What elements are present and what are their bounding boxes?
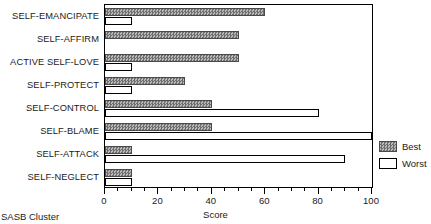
bar-group-row — [105, 120, 372, 143]
x-tick-minor — [278, 188, 279, 191]
bar-best — [105, 146, 132, 154]
x-tick-minor — [304, 188, 305, 191]
bar-worst — [105, 63, 132, 71]
x-tick-major — [157, 188, 158, 194]
x-tick-minor — [358, 188, 359, 191]
x-tick-minor — [238, 188, 239, 191]
bar-group-row — [105, 28, 372, 51]
bar-best — [105, 31, 239, 39]
legend-item-worst: Worst — [379, 156, 431, 173]
bar-group-row — [105, 143, 372, 166]
y-axis-label: SELF-CONTROL — [26, 103, 99, 113]
bar-worst — [105, 178, 132, 186]
x-tick-major — [104, 188, 105, 194]
bar-worst — [105, 155, 345, 163]
x-axis-title: Score — [0, 209, 431, 220]
y-axis-label: SELF-BLAME — [40, 126, 99, 136]
bar-group-row — [105, 51, 372, 74]
y-axis-label: ACTIVE SELF-LOVE — [10, 57, 99, 67]
bar-group-row — [105, 166, 372, 189]
x-tick-minor — [131, 188, 132, 191]
bar-best — [105, 100, 212, 108]
x-tick-minor — [251, 188, 252, 191]
legend-swatch-worst-icon — [379, 158, 397, 169]
legend-label-worst: Worst — [402, 158, 427, 169]
y-axis-label: SELF-PROTECT — [27, 80, 99, 90]
x-tick-label: 0 — [89, 195, 119, 206]
x-tick-major — [264, 188, 265, 194]
bar-best — [105, 169, 132, 177]
legend-label-best: Best — [402, 141, 421, 152]
plot-area — [104, 4, 373, 188]
x-tick-minor — [197, 188, 198, 191]
y-axis-label: SELF-NEGLECT — [28, 172, 99, 182]
bar-best — [105, 77, 185, 85]
y-axis-label: SELF-EMANCIPATE — [12, 11, 99, 21]
x-tick-minor — [344, 188, 345, 191]
x-tick-label: 60 — [249, 195, 279, 206]
x-tick-minor — [184, 188, 185, 191]
x-tick-label: 100 — [356, 195, 386, 206]
x-tick-major — [318, 188, 319, 194]
bar-worst — [105, 17, 132, 25]
legend-item-best: Best — [379, 139, 431, 156]
bar-worst — [105, 109, 319, 117]
x-tick-minor — [171, 188, 172, 191]
bar-best — [105, 8, 265, 16]
x-tick-major — [211, 188, 212, 194]
chart-legend: Best Worst — [379, 139, 431, 173]
x-tick-label: 40 — [196, 195, 226, 206]
sasb-cluster-bar-chart: SELF-EMANCIPATESELF-AFFIRMACTIVE SELF-LO… — [0, 0, 431, 224]
bar-group-row — [105, 5, 372, 28]
y-axis-label: SELF-ATTACK — [36, 149, 99, 159]
x-tick-major — [371, 188, 372, 194]
bar-worst — [105, 86, 132, 94]
x-tick-minor — [224, 188, 225, 191]
x-tick-minor — [144, 188, 145, 191]
bar-worst — [105, 132, 372, 140]
bar-group-row — [105, 74, 372, 97]
legend-swatch-best-icon — [379, 141, 397, 152]
x-tick-label: 20 — [142, 195, 172, 206]
x-tick-minor — [331, 188, 332, 191]
bar-best — [105, 54, 239, 62]
bar-group-row — [105, 97, 372, 120]
x-tick-label: 80 — [303, 195, 333, 206]
x-tick-minor — [117, 188, 118, 191]
bar-best — [105, 123, 212, 131]
y-axis-category-labels: SELF-EMANCIPATESELF-AFFIRMACTIVE SELF-LO… — [0, 4, 102, 188]
y-axis-label: SELF-AFFIRM — [37, 34, 99, 44]
x-tick-minor — [291, 188, 292, 191]
y-axis-title: SASB Cluster — [1, 211, 59, 222]
